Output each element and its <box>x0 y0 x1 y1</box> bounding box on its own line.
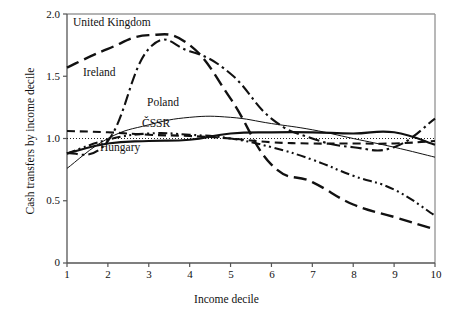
series-label-united-kingdom: United Kingdom <box>73 16 151 28</box>
y-tick-label: 2.0 <box>26 8 60 20</box>
x-tick-label: 1 <box>55 268 79 280</box>
x-tick-label: 9 <box>383 268 407 280</box>
x-axis-title: Income decile <box>0 293 453 305</box>
series-label-ireland: Ireland <box>83 66 116 78</box>
chart-figure: 2.0 1.5 1.0 0.5 0 1 2 3 4 5 6 7 8 9 10 I… <box>0 0 453 320</box>
x-tick-label: 4 <box>178 268 202 280</box>
series-line-ireland <box>67 40 435 155</box>
x-tick-label: 10 <box>424 268 448 280</box>
x-tick-label: 5 <box>219 268 243 280</box>
series-label-cssr: ČSSR <box>142 117 170 129</box>
series-label-poland: Poland <box>147 96 179 108</box>
x-tick-label: 2 <box>96 268 120 280</box>
y-tick-label: 0 <box>26 256 60 268</box>
x-tick-label: 6 <box>260 268 284 280</box>
y-axis-title: Cash transfers by income decile <box>24 26 36 256</box>
x-tick-label: 3 <box>137 268 161 280</box>
x-tick-label: 8 <box>342 268 366 280</box>
x-tick-label: 7 <box>301 268 325 280</box>
series-lines-group <box>67 34 435 229</box>
series-label-hungary: Hungary <box>100 141 140 153</box>
